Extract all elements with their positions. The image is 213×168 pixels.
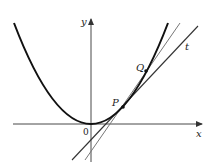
tangent-secant-diagram: y x 0 P Q t (0, 0, 213, 168)
origin-label: 0 (83, 127, 89, 137)
secant-line-pq (85, 23, 180, 160)
x-axis-label: x (196, 128, 202, 139)
point-p-label: P (111, 97, 119, 108)
y-axis-label: y (80, 16, 87, 27)
tangent-label: t (185, 41, 190, 52)
point-q (144, 69, 148, 73)
point-p (121, 105, 125, 109)
point-q-label: Q (136, 62, 144, 73)
